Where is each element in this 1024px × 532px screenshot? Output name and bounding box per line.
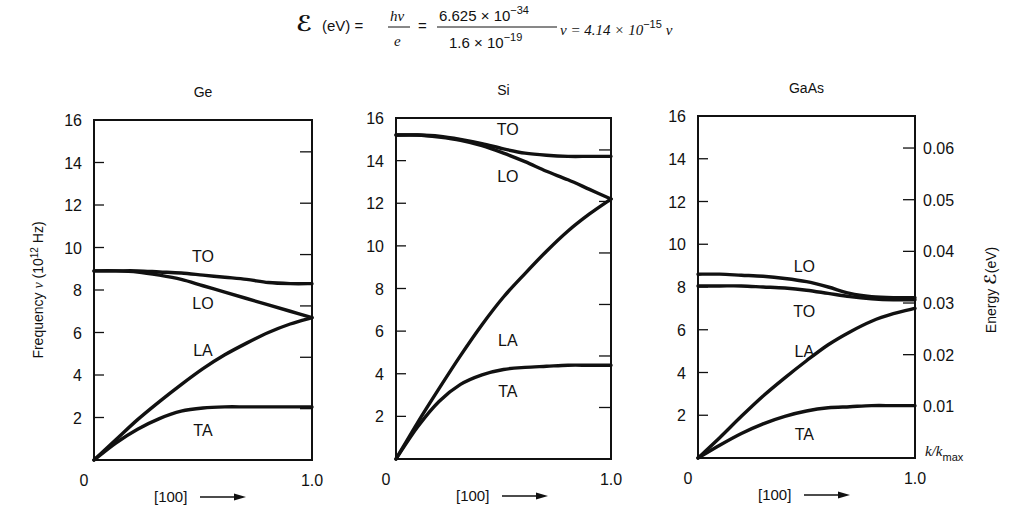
branch-label-to: TO (793, 303, 815, 320)
y-tick-label: 14 (64, 155, 82, 172)
panel-gaas: GaAs1614121086420.060.050.040.030.020.01… (668, 80, 964, 503)
y-tick-label: 14 (668, 151, 686, 168)
x-axis-label: [100] (154, 488, 187, 505)
y-tick-label: 4 (375, 366, 384, 383)
y2-tick-label: 0.04 (923, 243, 954, 260)
y2-tick-label: 0.03 (923, 295, 954, 312)
branch-label-lo: LO (497, 168, 518, 185)
dispersion-curve-to (698, 286, 915, 300)
y-tick-label: 2 (73, 410, 82, 427)
y2-tick-label: 0.01 (923, 398, 954, 415)
phonon-dispersion-plots: Frequency ν (1012 Hz) Energy ℰ(eV) Ge161… (0, 0, 1024, 532)
branch-label-lo: LO (192, 295, 213, 312)
x-tick-label-end: 1.0 (904, 470, 926, 487)
x-tick-label-end: 1.0 (600, 471, 622, 488)
y-tick-label: 16 (366, 110, 384, 127)
branch-label-la: LA (498, 332, 518, 349)
panel-title: Si (497, 82, 509, 98)
y-tick-label: 14 (366, 153, 384, 170)
y-tick-label: 8 (677, 279, 686, 296)
x-tick-label-start: 0 (80, 472, 89, 489)
y2-tick-label: 0.06 (923, 140, 954, 157)
branch-label-ta: TA (795, 426, 815, 443)
y-tick-label: 16 (668, 108, 686, 125)
y-tick-label: 6 (73, 325, 82, 342)
arrowhead-icon (838, 492, 850, 499)
y-tick-label: 12 (668, 194, 686, 211)
x-axis-label: [100] (456, 487, 489, 504)
y-tick-label: 8 (375, 281, 384, 298)
panel-ge: Ge16141210864201.0[100]TOLOLATA (64, 84, 323, 505)
y-tick-label: 8 (73, 282, 82, 299)
x-tick-label-start: 0 (382, 471, 391, 488)
y-tick-label: 6 (677, 322, 686, 339)
x-tick-label-end: 1.0 (301, 472, 323, 489)
branch-label-ta: TA (193, 422, 213, 439)
y-tick-label: 2 (375, 408, 384, 425)
y-tick-label: 12 (366, 195, 384, 212)
x-tick-label-start: 0 (684, 470, 693, 487)
y2-tick-label: 0.02 (923, 347, 954, 364)
x-axis-label: [100] (758, 486, 791, 503)
y-tick-label: 10 (366, 238, 384, 255)
k-over-kmax-label: k/kmax (925, 443, 964, 463)
branch-label-la: LA (193, 342, 213, 359)
y-tick-label: 10 (668, 236, 686, 253)
branch-label-la: LA (795, 343, 815, 360)
branch-label-lo: LO (794, 258, 815, 275)
branch-label-to: TO (497, 121, 519, 138)
y-tick-label: 12 (64, 197, 82, 214)
y-tick-label: 4 (677, 365, 686, 382)
panel-si: Si16141210864201.0[100]TOLOLATA (366, 82, 622, 504)
y-tick-label: 16 (64, 112, 82, 129)
y-tick-label: 6 (375, 323, 384, 340)
y-tick-label: 4 (73, 367, 82, 384)
panel-title: GaAs (789, 80, 824, 96)
y2-tick-label: 0.05 (923, 192, 954, 209)
branch-label-ta: TA (498, 383, 518, 400)
arrowhead-icon (536, 493, 548, 500)
dispersion-curve-ta (396, 365, 611, 459)
y-axis-label: Frequency ν (1012 Hz) (29, 221, 46, 358)
branch-label-to: TO (192, 248, 214, 265)
y-tick-label: 2 (677, 407, 686, 424)
arrowhead-icon (234, 494, 246, 501)
dispersion-curve-la (396, 199, 611, 459)
panel-title: Ge (194, 84, 213, 100)
y2-axis-label: Energy ℰ(eV) (982, 247, 999, 333)
y-tick-label: 10 (64, 240, 82, 257)
